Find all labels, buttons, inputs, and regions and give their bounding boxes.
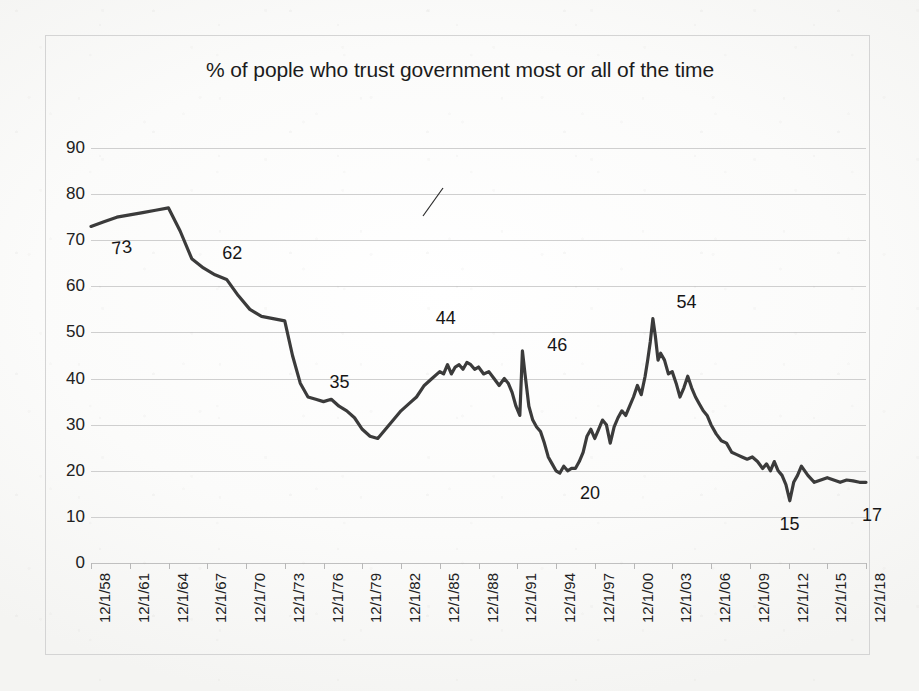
x-tick-label-12/1/18: 12/1/18 <box>872 573 887 623</box>
x-tickmark-12/1/73 <box>285 563 286 569</box>
x-axis: 12/1/5812/1/6112/1/6412/1/6712/1/7012/1/… <box>91 563 866 658</box>
x-tick-label-12/1/73: 12/1/73 <box>291 573 306 623</box>
x-tick-label-12/1/82: 12/1/82 <box>407 573 422 623</box>
x-tickmark-12/1/67 <box>207 563 208 569</box>
x-tickmark-12/1/06 <box>711 563 712 569</box>
y-tick-label-60: 60 <box>66 276 85 296</box>
annotation-leader-line <box>91 148 866 563</box>
x-tick-label-12/1/15: 12/1/15 <box>833 573 848 623</box>
y-tick-label-20: 20 <box>66 461 85 481</box>
x-tick-label-12/1/85: 12/1/85 <box>446 573 461 623</box>
x-tickmark-12/1/00 <box>634 563 635 569</box>
data-label-54: 54 <box>676 292 696 313</box>
x-tickmark-12/1/85 <box>440 563 441 569</box>
data-label-17: 17 <box>862 504 882 525</box>
y-axis: 0102030405060708090 <box>45 148 85 563</box>
chart-title: % of pople who trust government most or … <box>110 55 810 85</box>
x-tickmark-12/1/82 <box>401 563 402 569</box>
plot-area: 736235444620541517 <box>91 148 866 563</box>
x-tick-label-12/1/88: 12/1/88 <box>485 573 500 623</box>
x-tickmark-12/1/94 <box>556 563 557 569</box>
data-label-20: 20 <box>580 482 600 503</box>
y-tick-label-50: 50 <box>66 322 85 342</box>
y-tick-label-80: 80 <box>66 184 85 204</box>
data-label-15: 15 <box>780 513 800 534</box>
x-tickmark-12/1/15 <box>827 563 828 569</box>
x-tickmark-12/1/12 <box>789 563 790 569</box>
y-tick-label-70: 70 <box>66 230 85 250</box>
x-tick-label-12/1/67: 12/1/67 <box>213 573 228 623</box>
data-label-46: 46 <box>547 334 567 355</box>
x-tickmark-12/1/70 <box>246 563 247 569</box>
y-tick-label-90: 90 <box>66 138 85 158</box>
x-tick-label-12/1/64: 12/1/64 <box>175 573 190 623</box>
x-tick-label-12/1/94: 12/1/94 <box>562 573 577 623</box>
x-tickmark-12/1/88 <box>479 563 480 569</box>
x-tick-label-12/1/03: 12/1/03 <box>678 573 693 623</box>
data-label-35: 35 <box>329 371 349 392</box>
x-tick-label-12/1/58: 12/1/58 <box>97 573 112 623</box>
x-tickmark-12/1/58 <box>91 563 92 569</box>
x-tickmark-12/1/79 <box>362 563 363 569</box>
x-tick-label-12/1/06: 12/1/06 <box>717 573 732 623</box>
x-tick-label-12/1/70: 12/1/70 <box>252 573 267 623</box>
x-tick-label-12/1/97: 12/1/97 <box>601 573 616 623</box>
x-tick-label-12/1/76: 12/1/76 <box>330 573 345 623</box>
data-label-73: 73 <box>111 237 134 261</box>
x-tickmark-12/1/76 <box>324 563 325 569</box>
x-tick-label-12/1/12: 12/1/12 <box>795 573 810 623</box>
x-tickmark-12/1/97 <box>595 563 596 569</box>
x-tickmark-12/1/64 <box>169 563 170 569</box>
data-label-44: 44 <box>436 308 456 329</box>
x-tickmark-12/1/09 <box>750 563 751 569</box>
x-tick-label-12/1/00: 12/1/00 <box>640 573 655 623</box>
x-tickmark-12/1/61 <box>130 563 131 569</box>
data-label-62: 62 <box>222 243 242 264</box>
x-tickmark-12/1/91 <box>517 563 518 569</box>
x-tickmark-12/1/03 <box>672 563 673 569</box>
x-tick-label-12/1/09: 12/1/09 <box>756 573 771 623</box>
x-tick-label-12/1/91: 12/1/91 <box>523 573 538 623</box>
y-tick-label-40: 40 <box>66 369 85 389</box>
y-tick-label-30: 30 <box>66 415 85 435</box>
x-tickmark-12/1/18 <box>866 563 867 569</box>
y-tick-label-10: 10 <box>66 507 85 527</box>
x-tick-label-12/1/79: 12/1/79 <box>368 573 383 623</box>
x-tick-label-12/1/61: 12/1/61 <box>136 573 151 623</box>
y-tick-label-0: 0 <box>76 553 85 573</box>
